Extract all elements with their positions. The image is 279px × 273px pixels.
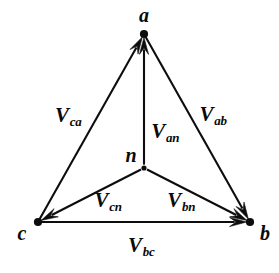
vector-label-v-ca: Vca: [55, 105, 81, 126]
vector-subscript: ab: [214, 113, 227, 128]
vector-symbol: V: [128, 233, 142, 257]
vector-subscript: an: [166, 130, 179, 145]
vector-label-v-an: Van: [151, 121, 179, 142]
vector-symbol: V: [95, 188, 109, 212]
node-label-c: c: [18, 223, 27, 243]
vector-subscript: bc: [143, 244, 155, 259]
vertex-dot-b: [246, 218, 254, 226]
vector-subscript: cn: [109, 199, 122, 214]
junction-dot-n: [141, 165, 146, 170]
vector-subscript: bn: [182, 199, 195, 214]
vertex-dot-a: [140, 30, 148, 38]
vector-symbol: V: [151, 119, 165, 143]
vector-symbol: V: [167, 188, 181, 212]
vector-symbol: V: [55, 103, 69, 127]
figure-canvas: Vca Vab Van Vcn Vbn Vbc a b c n: [0, 0, 279, 273]
vector-subscript: ca: [70, 114, 82, 129]
vector-edges: [40, 37, 249, 227]
vector-label-v-bc: Vbc: [128, 235, 154, 256]
vector-label-v-ab: Vab: [200, 104, 227, 125]
vector-label-v-bn: Vbn: [167, 190, 195, 211]
node-label-a: a: [139, 5, 149, 25]
vector-shaft-v-ca: [40, 47, 137, 219]
vector-symbol: V: [200, 102, 214, 126]
node-label-b: b: [260, 223, 270, 243]
vector-label-v-cn: Vcn: [95, 190, 122, 211]
vertex-dot-c: [34, 218, 42, 226]
node-label-n: n: [125, 145, 136, 165]
